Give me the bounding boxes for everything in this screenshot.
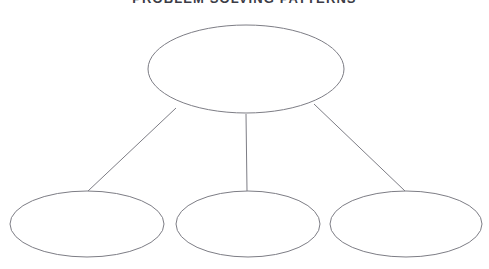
concept-map-graphic [0,0,489,269]
connector-group [88,104,405,191]
connector-center-line [246,114,247,191]
diagram-canvas: PROBLEM SOLVING PATTERNS [0,0,489,269]
parent-ellipse[interactable] [148,25,344,113]
child-center-ellipse[interactable] [176,191,320,257]
node-child-left[interactable] [10,191,164,257]
child-left-ellipse[interactable] [10,191,164,257]
node-child-center[interactable] [176,191,320,257]
node-parent[interactable] [148,25,344,113]
child-right-ellipse[interactable] [330,191,482,257]
connector-right-line [314,104,405,191]
connector-left-line [88,108,176,191]
node-child-right[interactable] [330,191,482,257]
